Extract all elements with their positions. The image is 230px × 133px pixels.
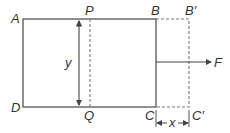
label-x: x [168,115,176,130]
label-q: Q [84,108,94,123]
label-d: D [11,100,20,115]
label-b: B [151,3,160,18]
label-c-prime: C′ [192,108,204,123]
label-y: y [64,55,73,70]
displaced-edge-b-c [156,19,189,107]
shear-diagram: A P B B′ y F D Q C C′ x [0,0,230,133]
label-f: F [214,55,223,70]
label-c: C [145,108,155,123]
rectangle-abcd [23,19,156,107]
label-p: P [85,3,94,18]
label-a: A [10,11,20,26]
label-b-prime: B′ [185,3,197,18]
